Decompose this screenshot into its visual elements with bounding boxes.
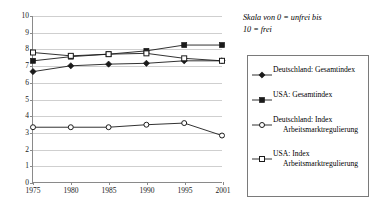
series-line (33, 45, 222, 61)
data-point (182, 56, 187, 61)
legend-item: USA: Gesamtindex (252, 90, 364, 101)
series-line (33, 61, 222, 72)
x-tick-label: 1990 (140, 187, 155, 195)
x-tick-label: 1980 (64, 187, 79, 195)
chart-screenshot: 012345678910 197519801985199019952001 Sk… (0, 0, 375, 213)
x-tick-mark (33, 182, 34, 185)
data-point (106, 52, 111, 57)
data-point (220, 133, 225, 138)
legend-item-label: Deutschland: Gesamtindex (272, 65, 355, 75)
legend-item-label-line2: Arbeitsmarktregulierung (273, 125, 358, 135)
open-square-marker (252, 150, 272, 160)
data-point (68, 53, 73, 58)
series-line (33, 123, 222, 135)
data-point (220, 58, 225, 63)
open-circle-marker (252, 116, 272, 126)
legend: Deutschland: GesamtindexUSA: Gesamtindex… (247, 55, 369, 197)
chart-panel: 012345678910 197519801985199019952001 (0, 0, 232, 213)
data-point (144, 51, 149, 56)
data-point (106, 61, 112, 67)
series-open-circle (31, 121, 225, 138)
x-tick-label: 1975 (26, 187, 41, 195)
y-tick-label: 10 (22, 12, 30, 20)
data-point (144, 122, 149, 127)
x-tick-mark (147, 182, 148, 185)
legend-item-label: Deutschland: IndexArbeitsmarktregulierun… (272, 115, 358, 135)
series-filled-square (31, 43, 225, 64)
x-tick-label: 1985 (102, 187, 117, 195)
data-point (106, 125, 111, 130)
plot-area: 012345678910 197519801985199019952001 (32, 16, 222, 183)
scale-annotation-line1: Skala von 0 = unfrei bis (243, 12, 371, 24)
y-tick-label: 8 (25, 46, 29, 54)
data-point (182, 43, 187, 48)
legend-item: Deutschland: Gesamtindex (252, 65, 364, 76)
scale-annotation: Skala von 0 = unfrei bis 10 = frei (243, 12, 371, 35)
data-point (68, 125, 73, 130)
y-tick-label: 5 (25, 96, 29, 104)
y-tick-label: 7 (25, 62, 29, 70)
data-point (182, 121, 187, 126)
x-tick-mark (223, 182, 224, 185)
legend-item: Deutschland: IndexArbeitsmarktregulierun… (252, 115, 364, 135)
y-tick-label: 3 (25, 129, 29, 137)
legend-item-label: USA: Gesamtindex (272, 90, 332, 100)
scale-annotation-line2: 10 = frei (243, 24, 371, 36)
x-tick-mark (109, 182, 110, 185)
legend-item-label: USA: IndexArbeitsmarktregulierung (272, 149, 358, 169)
data-point (220, 43, 225, 48)
data-point (30, 69, 36, 75)
y-tick-label: 1 (25, 163, 29, 171)
data-point (31, 125, 36, 130)
y-tick-label: 2 (25, 146, 29, 154)
filled-diamond-marker (252, 66, 272, 76)
series-open-square (31, 50, 225, 63)
data-point (68, 63, 74, 69)
series-line (33, 53, 222, 61)
x-tick-mark (185, 182, 186, 185)
legend-item-label-line2: Arbeitsmarktregulierung (273, 159, 358, 169)
y-tick-label: 6 (25, 79, 29, 87)
filled-square-marker (252, 91, 272, 101)
data-point (31, 58, 36, 63)
legend-item: USA: IndexArbeitsmarktregulierung (252, 149, 364, 169)
series-filled-diamond (30, 58, 225, 75)
x-tick-label: 2001 (216, 187, 231, 195)
series-layer (33, 16, 222, 182)
x-tick-mark (71, 182, 72, 185)
y-tick-label: 4 (25, 112, 29, 120)
x-tick-label: 1995 (178, 187, 193, 195)
data-point (31, 50, 36, 55)
y-tick-label: 9 (25, 29, 29, 37)
data-point (143, 60, 149, 66)
